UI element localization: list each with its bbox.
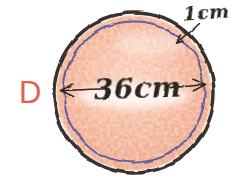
- circle-diagram: 36cm 1cm D: [0, 0, 233, 191]
- figure-label: D: [19, 75, 41, 110]
- diameter-label: 36cm: [93, 70, 182, 106]
- ring-width-label: 1cm: [183, 0, 231, 25]
- scanned-figure: 36cm 1cm D: [0, 0, 233, 191]
